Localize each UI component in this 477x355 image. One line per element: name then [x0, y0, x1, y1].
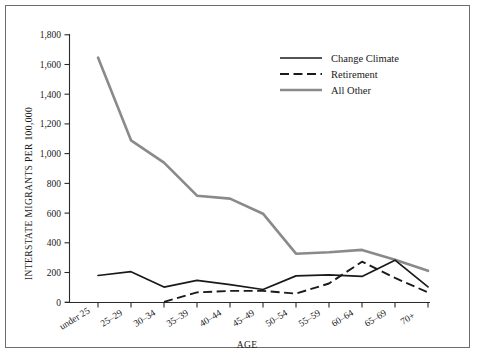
x-tick-label: 40–44 — [198, 307, 224, 328]
x-tick-label: 60–64 — [330, 307, 356, 328]
y-tick-label: 1,000 — [40, 149, 62, 159]
x-tick-label: 35–39 — [165, 307, 191, 328]
series-line-change-climate — [98, 260, 428, 289]
y-tick-label: 1,800 — [40, 30, 62, 40]
x-tick-label: 25–29 — [99, 307, 125, 328]
x-tick-label: 70+ — [399, 310, 417, 326]
x-tick-label: 65–69 — [363, 307, 389, 328]
x-tick-label: 30–34 — [132, 307, 158, 328]
y-tick-label: 1,600 — [40, 60, 62, 70]
x-tick-label: 50–54 — [264, 307, 290, 328]
legend-label-all-other: All Other — [331, 85, 371, 96]
y-tick-label: 1,200 — [40, 119, 62, 129]
x-tick-label: 55–59 — [297, 307, 323, 328]
line-chart: 1,800 1,600 1,400 1,200 1,000 800 600 40… — [0, 0, 477, 355]
y-tick-label: 1,400 — [40, 90, 62, 100]
x-tick-labels: under 25 25–29 30–34 35–39 40–44 45–49 5… — [58, 305, 417, 331]
legend: Change Climate Retirement All Other — [280, 53, 399, 96]
legend-label-retirement: Retirement — [331, 69, 378, 80]
y-axis-title: INTERSTATE MIGRANTS PER 100,000 — [24, 107, 34, 280]
y-tick-label: 200 — [47, 268, 62, 278]
series-line-all-other — [98, 58, 428, 271]
x-tick-label: under 25 — [58, 305, 92, 331]
y-tick-labels: 1,800 1,600 1,400 1,200 1,000 800 600 40… — [40, 30, 62, 307]
y-tick-marks — [65, 35, 70, 302]
x-tick-marks — [98, 303, 428, 308]
y-tick-label: 0 — [56, 298, 61, 308]
legend-label-change-climate: Change Climate — [331, 53, 399, 64]
chart-page: 1,800 1,600 1,400 1,200 1,000 800 600 40… — [0, 0, 477, 355]
y-tick-label: 400 — [47, 238, 62, 248]
y-tick-label: 600 — [47, 209, 62, 219]
x-tick-label: 45–49 — [231, 307, 257, 328]
x-axis-title: AGE — [237, 340, 258, 350]
y-tick-label: 800 — [47, 179, 62, 189]
